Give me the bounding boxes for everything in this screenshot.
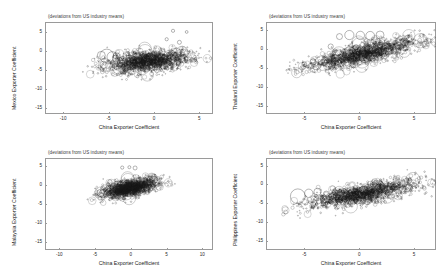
x-tick-label: -5 xyxy=(97,116,121,121)
x-tickmark xyxy=(63,112,64,114)
x-tickmark xyxy=(414,248,415,250)
x-tickmark xyxy=(59,248,60,250)
scatter-points-malaysia xyxy=(0,138,222,276)
y-tickmark xyxy=(266,166,268,167)
x-tick-label: -5 xyxy=(292,252,316,257)
y-tick-label: -15 xyxy=(244,103,263,108)
x-tickmark xyxy=(202,248,203,250)
x-tickmark xyxy=(154,112,155,114)
x-tickmark xyxy=(304,112,305,114)
y-tickmark xyxy=(266,30,268,31)
x-tick-label: 5 xyxy=(187,116,211,121)
x-tick-label: 0 xyxy=(142,116,166,121)
y-tick-label: 0 xyxy=(244,46,263,51)
x-tickmark xyxy=(167,248,168,250)
y-tick-label: -10 xyxy=(244,84,263,89)
x-tick-label: -5 xyxy=(292,116,316,121)
y-tick-label: -10 xyxy=(23,220,42,225)
panel-malaysia: (deviations from US industry means) Mala… xyxy=(0,138,222,276)
y-tick-label: -10 xyxy=(23,86,42,91)
y-tickmark xyxy=(266,203,268,204)
x-tick-label: 0 xyxy=(119,252,143,257)
y-tickmark xyxy=(266,184,268,185)
y-tickmark xyxy=(266,68,268,69)
y-tickmark xyxy=(45,223,47,224)
y-tick-label: -5 xyxy=(23,67,42,72)
x-tickmark xyxy=(95,248,96,250)
figure-grid: (deviations from US industry means) Mexi… xyxy=(0,0,444,276)
y-tick-label: -5 xyxy=(23,201,42,206)
y-tickmark xyxy=(266,49,268,50)
x-tick-label: 0 xyxy=(347,252,371,257)
x-tick-label: 5 xyxy=(402,252,426,257)
y-tick-label: 5 xyxy=(244,27,263,32)
y-tick-label: 0 xyxy=(244,181,263,186)
x-tick-label: -10 xyxy=(47,252,71,257)
x-tick-label: -10 xyxy=(51,116,75,121)
y-tick-label: -15 xyxy=(23,105,42,110)
y-tick-label: 0 xyxy=(23,48,42,53)
x-tick-label: 10 xyxy=(190,252,214,257)
x-tick-label: 5 xyxy=(402,116,426,121)
x-tickmark xyxy=(131,248,132,250)
x-tickmark xyxy=(304,248,305,250)
panel-thailand: (deviations from US industry means) Thai… xyxy=(222,0,444,138)
y-tick-label: 5 xyxy=(23,163,42,168)
x-tick-label: 5 xyxy=(155,252,179,257)
y-tickmark xyxy=(45,242,47,243)
y-tickmark xyxy=(45,108,47,109)
x-tickmark xyxy=(359,248,360,250)
panel-mexico: (deviations from US industry means) Mexi… xyxy=(0,0,222,138)
panel-philippines: (deviations from US industry means) Phil… xyxy=(222,138,444,276)
y-tickmark xyxy=(45,51,47,52)
x-tickmark xyxy=(414,112,415,114)
y-tickmark xyxy=(45,70,47,71)
y-tick-label: 0 xyxy=(23,182,42,187)
y-tickmark xyxy=(45,204,47,205)
x-tick-label: 0 xyxy=(347,116,371,121)
y-tick-label: 5 xyxy=(244,163,263,168)
y-tickmark xyxy=(45,89,47,90)
x-tickmark xyxy=(109,112,110,114)
x-tickmark xyxy=(199,112,200,114)
y-tickmark xyxy=(266,222,268,223)
y-tick-label: -5 xyxy=(244,200,263,205)
y-tickmark xyxy=(266,106,268,107)
y-tick-label: 5 xyxy=(23,29,42,34)
y-tick-label: -15 xyxy=(244,238,263,243)
y-tickmark xyxy=(45,166,47,167)
y-tickmark xyxy=(266,87,268,88)
x-tick-label: -5 xyxy=(83,252,107,257)
y-tickmark xyxy=(45,185,47,186)
y-tickmark xyxy=(45,32,47,33)
y-tick-label: -10 xyxy=(244,219,263,224)
y-tickmark xyxy=(266,241,268,242)
y-tick-label: -15 xyxy=(23,239,42,244)
x-tickmark xyxy=(359,112,360,114)
y-tick-label: -5 xyxy=(244,65,263,70)
